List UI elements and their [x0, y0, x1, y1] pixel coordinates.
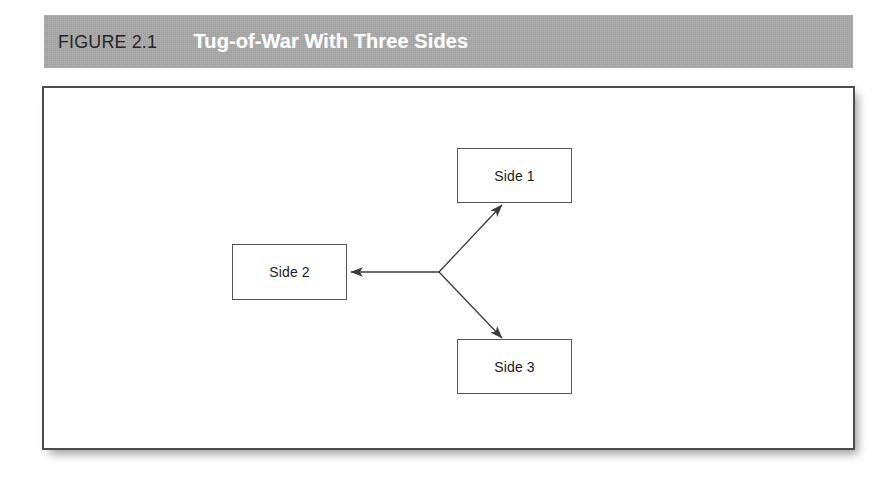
node-label-side-1: Side 1	[494, 168, 534, 184]
figure-number-label: FIGURE 2.1	[58, 31, 157, 53]
figure-title: Tug-of-War With Three Sides	[193, 30, 468, 53]
diagram-area: Side 1 Side 2 Side 3	[44, 88, 853, 448]
node-box-side-2: Side 2	[232, 244, 347, 300]
figure-panel: Side 1 Side 2 Side 3	[42, 86, 855, 450]
arrow-to-side-1	[439, 205, 502, 272]
node-box-side-3: Side 3	[457, 339, 572, 394]
node-box-side-1: Side 1	[457, 148, 572, 203]
diagram-arrows	[44, 88, 853, 448]
arrow-to-side-3	[439, 272, 502, 338]
node-label-side-2: Side 2	[269, 264, 309, 280]
figure-header-bar: FIGURE 2.1 Tug-of-War With Three Sides	[44, 15, 853, 68]
node-label-side-3: Side 3	[494, 359, 534, 375]
